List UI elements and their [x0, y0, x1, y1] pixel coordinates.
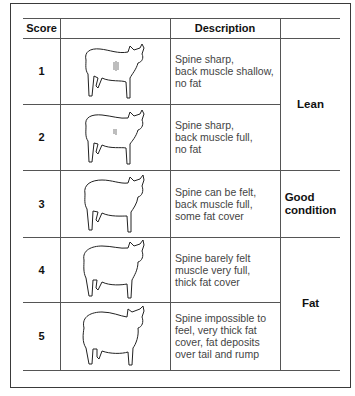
description-5: Spine impossible to feel, very thick fat…: [170, 302, 280, 370]
score-2: 2: [23, 104, 60, 170]
category-lean: Lean: [281, 38, 340, 170]
description-2: Spine sharp, back muscle full, no fat: [170, 104, 280, 170]
thin-sheep-icon: [80, 40, 152, 102]
header-score: Score: [23, 18, 60, 38]
good-sheep-icon: [80, 172, 152, 235]
fat-sheep-icon: [80, 238, 152, 301]
description-4: Spine barely felt muscle very full, thic…: [170, 237, 280, 302]
description-1: Spine sharp, back muscle shallow, no fat: [170, 38, 280, 104]
score-5: 5: [23, 302, 60, 370]
category-fat: Fat: [281, 237, 340, 370]
column-divider-1: [60, 18, 61, 370]
score-1: 1: [23, 38, 60, 104]
lean-sheep-icon: [80, 106, 152, 168]
score-4: 4: [23, 237, 60, 302]
header-description: Description: [170, 18, 280, 38]
category-good-condition: Good condition: [281, 170, 340, 237]
table-bottom-rule: [23, 370, 340, 371]
score-3: 3: [23, 170, 60, 237]
very-fat-sheep-icon: [80, 304, 152, 368]
description-3: Spine can be felt, back muscle full, som…: [170, 170, 280, 237]
